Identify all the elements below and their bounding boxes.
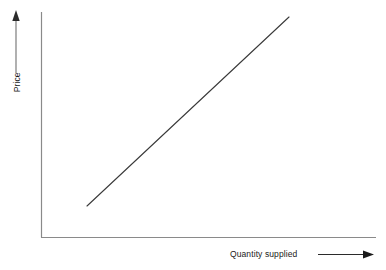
x-axis-label: Quantity supplied: [230, 250, 297, 259]
supply-curve-figure: Price Quantity supplied: [0, 0, 386, 270]
y-axis-label: Price: [13, 65, 22, 99]
plot-background: [0, 0, 386, 270]
plot-canvas: [0, 0, 386, 270]
